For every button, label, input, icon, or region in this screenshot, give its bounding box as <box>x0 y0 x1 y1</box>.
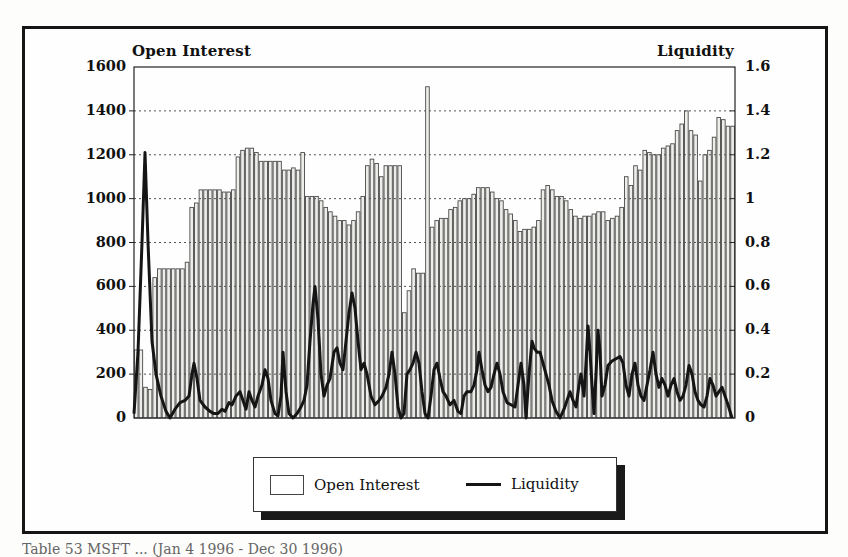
open-interest-bar <box>250 148 254 418</box>
open-interest-bar <box>560 196 564 418</box>
legend-item-liquidity: Liquidity <box>466 475 579 493</box>
open-interest-bar <box>537 221 541 418</box>
open-interest-bar <box>453 207 457 418</box>
open-interest-bar <box>342 221 346 418</box>
open-interest-bar <box>675 131 679 418</box>
open-interest-bar <box>620 207 624 418</box>
open-interest-bar <box>213 190 217 418</box>
open-interest-bar <box>218 190 222 418</box>
open-interest-bar <box>287 170 291 418</box>
open-interest-bar <box>555 196 559 418</box>
legend-label-liquidity: Liquidity <box>511 475 579 493</box>
open-interest-bar <box>509 214 513 418</box>
open-interest-bar <box>139 350 143 418</box>
open-interest-bar <box>171 269 175 418</box>
line-swatch-icon <box>466 483 501 486</box>
open-interest-bar <box>458 201 462 418</box>
open-interest-bar <box>569 210 573 418</box>
open-interest-bar <box>532 227 536 418</box>
open-interest-bar <box>486 188 490 418</box>
open-interest-bar <box>426 87 430 418</box>
open-interest-bar <box>643 150 647 418</box>
open-interest-bar <box>292 168 296 418</box>
open-interest-bar <box>273 161 277 418</box>
open-interest-bar <box>722 120 726 418</box>
open-interest-bar <box>541 190 545 418</box>
open-interest-bar <box>333 216 337 418</box>
open-interest-bar <box>231 190 235 418</box>
open-interest-bar <box>564 201 568 418</box>
open-interest-bar <box>467 199 471 418</box>
open-interest-bar <box>694 135 698 418</box>
open-interest-bar <box>204 190 208 418</box>
open-interest-bar <box>301 153 305 418</box>
legend-item-open-interest: Open Interest <box>270 475 419 495</box>
open-interest-bar <box>208 190 212 418</box>
open-interest-bar <box>463 199 467 418</box>
open-interest-bar <box>698 181 702 418</box>
open-interest-bar <box>389 166 393 418</box>
open-interest-bar <box>666 146 670 418</box>
open-interest-bar <box>449 210 453 418</box>
open-interest-bar <box>587 216 591 418</box>
open-interest-bar <box>176 269 180 418</box>
open-interest-bar <box>338 221 342 418</box>
open-interest-bar <box>245 148 249 418</box>
open-interest-bar <box>606 221 610 418</box>
open-interest-bar <box>477 188 481 418</box>
open-interest-bar <box>241 150 245 418</box>
open-interest-bar <box>162 269 166 418</box>
bar-swatch-icon <box>270 475 304 495</box>
open-interest-bar <box>504 210 508 418</box>
open-interest-bar <box>615 216 619 418</box>
open-interest-bar <box>375 164 379 418</box>
open-interest-bar <box>227 192 231 418</box>
open-interest-bar <box>167 269 171 418</box>
open-interest-bar <box>236 157 240 418</box>
figure-caption: Table 53 MSFT ... (Jan 4 1996 - Dec 30 1… <box>22 541 343 557</box>
open-interest-bar <box>361 196 365 418</box>
open-interest-bar <box>495 199 499 418</box>
open-interest-bar <box>379 177 383 418</box>
open-interest-bar <box>144 387 148 418</box>
open-interest-bar <box>717 117 721 418</box>
open-interest-bar <box>611 218 615 418</box>
open-interest-bar <box>296 170 300 418</box>
open-interest-bar <box>148 389 152 418</box>
legend-label-open-interest: Open Interest <box>314 476 419 494</box>
open-interest-bar <box>398 166 402 418</box>
open-interest-bar <box>255 153 259 418</box>
open-interest-bar <box>181 269 185 418</box>
open-interest-bar <box>416 273 420 418</box>
open-interest-bar <box>671 144 675 418</box>
open-interest-bar <box>412 269 416 418</box>
open-interest-bar <box>199 190 203 418</box>
open-interest-bar <box>407 291 411 418</box>
open-interest-bar <box>435 221 439 418</box>
open-interest-bar <box>444 218 448 418</box>
open-interest-bar <box>370 159 374 418</box>
legend: Open Interest Liquidity <box>253 457 617 512</box>
open-interest-bar <box>712 137 716 418</box>
open-interest-bar <box>222 192 226 418</box>
open-interest-bar <box>550 190 554 418</box>
open-interest-bar <box>574 216 578 418</box>
